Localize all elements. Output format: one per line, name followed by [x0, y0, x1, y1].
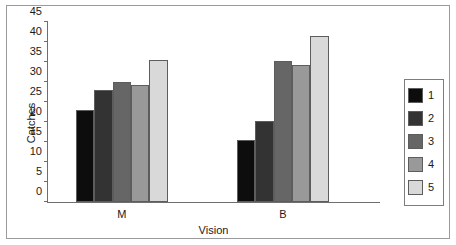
bar-series-2-M [94, 90, 112, 202]
legend-swatch-icon [408, 111, 423, 126]
legend-item-1: 1 [408, 84, 440, 107]
bar-group: M [76, 22, 167, 202]
plot-area: 051015202530354045 MB [47, 22, 380, 203]
bar-series-1-M [76, 110, 94, 202]
legend-swatch-icon [408, 180, 423, 195]
legend-item-label: 1 [428, 90, 434, 101]
legend-item-2: 2 [408, 107, 440, 130]
y-axis-tick-label: 15 [30, 126, 42, 137]
bar-series-4-M [131, 85, 149, 202]
bar-series-5-B [310, 36, 328, 202]
bar-series-1-B [237, 140, 255, 202]
bar-group: B [237, 22, 328, 202]
legend-item-5: 5 [408, 176, 440, 199]
legend-item-label: 2 [428, 113, 434, 124]
y-axis-tick-label: 30 [30, 66, 42, 77]
legend: 12345 [404, 79, 444, 206]
y-axis-tick-label: 5 [36, 166, 42, 177]
x-axis-category-label: B [237, 208, 328, 220]
bar-series-3-M [113, 82, 131, 202]
y-axis-tick-mark [44, 181, 48, 182]
y-axis-tick-mark [44, 161, 48, 162]
legend-item-label: 3 [428, 136, 434, 147]
bar-series-4-B [292, 65, 310, 202]
y-axis-tick-mark [44, 81, 48, 82]
y-axis-tick-mark [44, 61, 48, 62]
legend-item-3: 3 [408, 130, 440, 153]
bar-series-2-B [255, 121, 273, 202]
y-axis-tick-mark [44, 101, 48, 102]
legend-item-label: 5 [428, 182, 434, 193]
bar-series-3-B [274, 61, 292, 202]
bar-chart-figure: Catches Vision 051015202530354045 MB 123… [0, 0, 456, 245]
y-axis-tick-label: 45 [30, 6, 42, 17]
x-axis-category-label: M [76, 208, 167, 220]
y-axis-tick-label: 25 [30, 86, 42, 97]
y-axis-tick-mark [44, 41, 48, 42]
legend-item-label: 4 [428, 159, 434, 170]
legend-item-4: 4 [408, 153, 440, 176]
y-axis-tick-label: 10 [30, 146, 42, 157]
y-axis-tick-label: 40 [30, 26, 42, 37]
y-axis-tick-mark [44, 21, 48, 22]
y-axis-tick-mark [44, 201, 48, 202]
y-axis-tick-mark [44, 141, 48, 142]
y-axis-tick-label: 0 [36, 186, 42, 197]
y-axis-tick-label: 20 [30, 106, 42, 117]
legend-swatch-icon [408, 134, 423, 149]
x-axis-label: Vision [47, 224, 380, 236]
legend-swatch-icon [408, 88, 423, 103]
bar-series-5-M [149, 60, 167, 202]
y-axis-tick-label: 35 [30, 46, 42, 57]
legend-swatch-icon [408, 157, 423, 172]
y-axis-tick-mark [44, 121, 48, 122]
